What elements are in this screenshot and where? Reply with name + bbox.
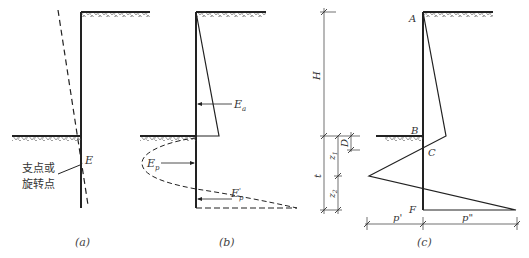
label-A: A (408, 13, 416, 24)
dim-label-z1: z1 (327, 151, 338, 161)
soil-hatch-top (82, 13, 150, 17)
caption-c: (c) (417, 236, 432, 249)
arrowhead-Ea (197, 102, 202, 106)
label-pivot-line1: 支点或 (22, 162, 55, 175)
active-pressure-diagram (196, 12, 219, 136)
dim-label-p-prime: p' (393, 212, 402, 223)
rotated-wall-dashed (58, 10, 88, 205)
retaining-wall-diagram: E 支点或 旋转点 (a) Ea Ep E'p (b) (0, 0, 529, 258)
panel-a: E 支点或 旋转点 (a) (12, 10, 150, 249)
label-F: F (408, 204, 417, 215)
arrowhead-Ep-prime (197, 197, 202, 201)
arrowhead-Ep (190, 161, 195, 165)
soil-hatch-excavation (385, 137, 423, 141)
passive-pressure-curve (142, 138, 297, 208)
dim-label-p-double-prime: p" (462, 212, 473, 223)
label-C: C (428, 147, 436, 158)
dim-label-z2: z2 (327, 189, 338, 199)
label-Ep: Ep (146, 157, 160, 172)
label-Ea: Ea (233, 98, 246, 113)
dim-label-t: t (312, 173, 323, 178)
dim-label-D: D (339, 139, 350, 148)
soil-hatch-excavation (12, 137, 81, 141)
caption-b: (b) (219, 236, 235, 249)
label-pivot-line2: 旋转点 (22, 177, 55, 191)
soil-hatch-top (424, 13, 493, 17)
label-Ep-prime: E'p (230, 187, 244, 202)
panel-b: Ea Ep E'p (b) (140, 12, 297, 249)
dimension-lines (320, 8, 520, 230)
caption-a: (a) (75, 236, 90, 249)
net-pressure-diagram (369, 12, 516, 210)
dim-label-H: H (311, 71, 322, 81)
label-B: B (410, 125, 418, 136)
pivot-leader (58, 165, 80, 174)
label-E: E (84, 154, 93, 167)
panel-c: A B C F (311, 8, 520, 249)
soil-hatch-top (197, 13, 266, 17)
